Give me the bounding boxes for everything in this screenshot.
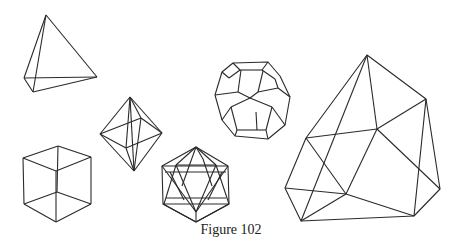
irregular-polyhedron [285, 55, 440, 221]
icosahedron [162, 147, 229, 222]
octahedron [100, 97, 162, 171]
cube [23, 146, 91, 222]
dodecahedron [215, 62, 290, 139]
figure-caption: Figure 102 [0, 222, 464, 238]
polyhedra-figure [0, 0, 464, 243]
tetrahedron [24, 15, 97, 92]
figure-caption-text: Figure 102 [200, 222, 261, 237]
